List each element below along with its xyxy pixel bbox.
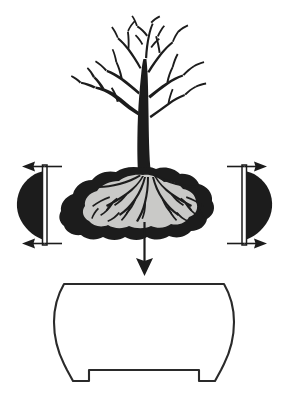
right-gauge-bar xyxy=(242,165,247,245)
tree-repotting-diagram xyxy=(0,0,289,397)
diagram-canvas: Tree root ball repotting diagram Leafles… xyxy=(0,0,289,397)
left-gauge-bar xyxy=(43,165,48,245)
planting-pot xyxy=(54,284,234,381)
